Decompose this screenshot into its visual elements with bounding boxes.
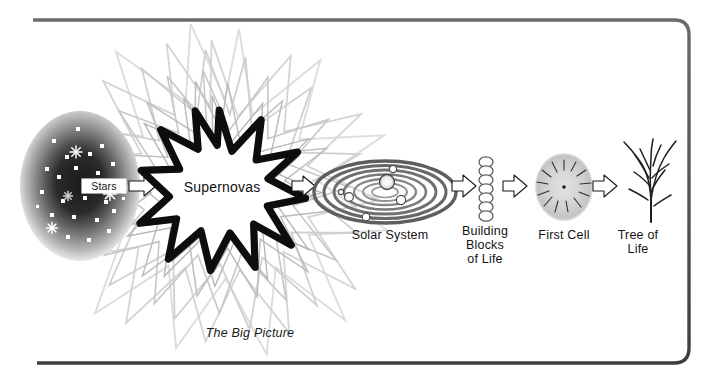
stage-label-first-cell: First Cell bbox=[521, 228, 607, 242]
stage-label-supernovas: Supernovas bbox=[174, 180, 270, 196]
stage-label-tree-of-life: Tree of Life bbox=[604, 228, 672, 256]
stage-label-solar-system: Solar System bbox=[330, 228, 450, 242]
figure-caption: The Big Picture bbox=[170, 326, 330, 340]
stage-label-stars: Stars bbox=[82, 179, 126, 193]
stage-label-building-blocks: Building Blocks of Life bbox=[452, 224, 518, 266]
figure-canvas: Stars Supernovas Solar System Building B… bbox=[0, 0, 722, 383]
